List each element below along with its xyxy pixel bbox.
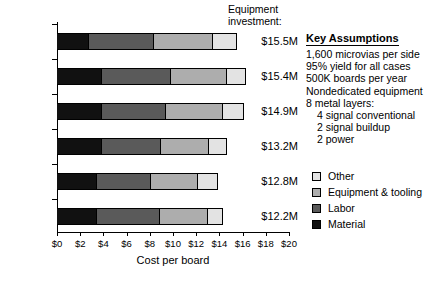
bar-segment-other <box>212 34 235 49</box>
table-row[interactable] <box>57 103 244 120</box>
x-tick-label: $12 <box>188 238 204 249</box>
bar-segment-material <box>57 34 88 49</box>
x-tick-label: $14 <box>211 238 227 249</box>
bar-segment-labor <box>101 104 165 119</box>
y-tick-mark <box>52 94 57 95</box>
x-tick-mark <box>57 232 58 236</box>
x-tick-mark <box>266 232 267 236</box>
equipment-investment-value: $12.8M <box>252 175 298 187</box>
x-tick-mark <box>289 232 290 236</box>
bar-segment-labor <box>96 174 149 189</box>
x-tick-mark <box>219 232 220 236</box>
x-axis-title: Cost per board <box>57 254 289 266</box>
key-assumption-line: 2 power <box>306 133 426 145</box>
x-tick-label: $2 <box>75 238 86 249</box>
legend-swatch-icon <box>312 172 321 181</box>
x-tick-mark <box>80 232 81 236</box>
bar-segment-other <box>207 209 222 224</box>
bar-segment-equipment-tooling <box>153 34 212 49</box>
bar-segment-material <box>57 69 101 84</box>
bar-segment-other <box>197 174 217 189</box>
equipment-investment-value: $13.2M <box>252 140 298 152</box>
y-tick-mark <box>52 24 57 25</box>
key-assumption-line: 4 signal conventional <box>306 109 426 121</box>
key-assumption-line: 95% yield for all cases <box>306 60 426 72</box>
bar-segment-equipment-tooling <box>159 209 207 224</box>
table-row[interactable] <box>57 173 218 190</box>
legend-item[interactable]: Material <box>312 216 422 232</box>
equipment-investment-value: $14.9M <box>252 105 298 117</box>
bar-segment-labor <box>101 69 169 84</box>
table-row[interactable] <box>57 33 237 50</box>
x-tick-mark <box>243 232 244 236</box>
x-tick-label: $20 <box>281 238 297 249</box>
key-assumptions-list: 1,600 microvias per side95% yield for al… <box>306 48 426 146</box>
key-assumption-line: 1,600 microvias per side <box>306 48 426 60</box>
bar-segment-other <box>208 139 227 154</box>
x-tick-mark <box>103 232 104 236</box>
equipment-investment-heading: Equipment investment: <box>228 3 308 27</box>
legend-item[interactable]: Labor <box>312 200 422 216</box>
legend-swatch-icon <box>312 204 321 213</box>
y-tick-mark <box>52 59 57 60</box>
x-tick-mark <box>127 232 128 236</box>
bar-segment-labor <box>88 34 153 49</box>
x-tick-label: $8 <box>145 238 156 249</box>
bar-segment-equipment-tooling <box>160 139 208 154</box>
y-tick-mark <box>52 164 57 165</box>
equipment-investment-heading-line2: investment: <box>228 15 308 27</box>
y-axis-line <box>57 22 58 232</box>
x-tick-label: $0 <box>52 238 63 249</box>
key-assumption-line: Nondedicated equipment <box>306 85 426 97</box>
legend-label: Other <box>328 170 354 182</box>
bar-segment-material <box>57 139 101 154</box>
bar-segment-material <box>57 209 96 224</box>
bar-segment-material <box>57 174 96 189</box>
y-tick-mark <box>52 129 57 130</box>
bar-segment-equipment-tooling <box>165 104 222 119</box>
table-row[interactable] <box>57 208 223 225</box>
equipment-investment-value: $15.5M <box>252 35 298 47</box>
bar-segment-labor <box>96 209 159 224</box>
key-assumptions-title: Key Assumptions <box>306 32 399 46</box>
x-tick-label: $18 <box>258 238 274 249</box>
x-tick-mark <box>173 232 174 236</box>
equipment-investment-value: $15.4M <box>252 70 298 82</box>
key-assumption-line: 8 metal layers: <box>306 97 426 109</box>
bar-segment-other <box>226 69 245 84</box>
x-tick-label: $6 <box>121 238 132 249</box>
legend-label: Labor <box>328 202 355 214</box>
x-tick-label: $4 <box>98 238 109 249</box>
bar-segment-labor <box>101 139 160 154</box>
key-assumptions-box: Key Assumptions 1,600 microvias per side… <box>306 28 426 146</box>
bar-segment-equipment-tooling <box>150 174 198 189</box>
legend-swatch-icon <box>312 188 321 197</box>
table-row[interactable] <box>57 138 227 155</box>
bar-segment-material <box>57 104 101 119</box>
legend-item[interactable]: Equipment & tooling <box>312 184 422 200</box>
x-tick-mark <box>196 232 197 236</box>
legend-swatch-icon <box>312 220 321 229</box>
table-row[interactable] <box>57 68 246 85</box>
equipment-investment-value: $12.2M <box>252 210 298 222</box>
key-assumption-line: 2 signal buildup <box>306 121 426 133</box>
chart-panel: Equipment investment: $0$2$4$6$8$10$12$1… <box>0 0 250 284</box>
legend-label: Material <box>328 218 365 230</box>
y-tick-mark <box>52 199 57 200</box>
bar-segment-other <box>222 104 243 119</box>
equipment-investment-heading-line1: Equipment <box>228 3 308 15</box>
chart-legend: OtherEquipment & toolingLaborMaterial <box>312 168 422 232</box>
x-tick-label: $16 <box>235 238 251 249</box>
legend-item[interactable]: Other <box>312 168 422 184</box>
bar-segment-equipment-tooling <box>170 69 227 84</box>
x-tick-mark <box>150 232 151 236</box>
x-tick-label: $10 <box>165 238 181 249</box>
legend-label: Equipment & tooling <box>328 186 422 198</box>
key-assumption-line: 500K boards per year <box>306 72 426 84</box>
